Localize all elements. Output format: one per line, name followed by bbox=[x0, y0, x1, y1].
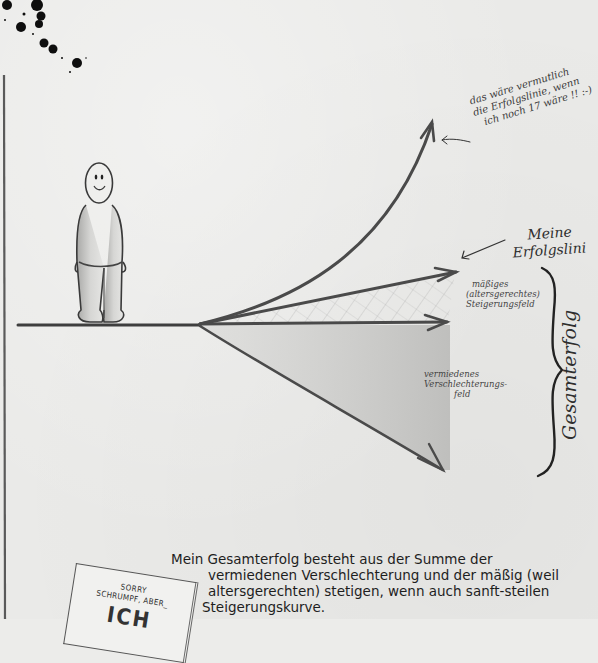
caption-line: vermiedenen Verschlechterung und der mäß… bbox=[171, 567, 559, 583]
annotation-line: Steigerungsfeld bbox=[466, 299, 540, 309]
annotation-line: vermiedenes bbox=[424, 369, 507, 379]
annotation-moderate-field: mäßiges (altersgerechtes) Steigerungsfel… bbox=[466, 279, 540, 309]
annotation-avoided-field: vermiedenes Verschlechterungs- feld bbox=[424, 369, 507, 399]
avoided-worsening-field bbox=[200, 325, 450, 470]
annotation-line: mäßiges bbox=[466, 279, 540, 289]
caption-line: altersgerechten) stetigen, wenn auch san… bbox=[171, 583, 559, 599]
annotation-line: (altersgerechtes) bbox=[466, 289, 540, 299]
annotation-line: Verschlechterungs- bbox=[424, 379, 507, 389]
ink-splatter bbox=[2, 0, 87, 73]
horizontal-arrow bbox=[200, 322, 447, 324]
caption-line: Steigerungskurve. bbox=[171, 599, 559, 615]
caption: Mein Gesamterfolg besteht aus der Summe … bbox=[171, 551, 559, 615]
pointer-arrow-meine bbox=[462, 240, 505, 259]
pointer-arrow-top bbox=[442, 136, 470, 144]
annotation-line: feld bbox=[424, 389, 507, 399]
stick-figure bbox=[75, 163, 125, 322]
vertical-axis bbox=[4, 75, 5, 619]
annotation-total-success: Gesamterfolg bbox=[560, 310, 580, 440]
annotation-my-success-line: Meine Erfolgslini bbox=[511, 222, 587, 261]
caption-line: Mein Gesamterfolg besteht aus der Summe … bbox=[171, 551, 559, 567]
